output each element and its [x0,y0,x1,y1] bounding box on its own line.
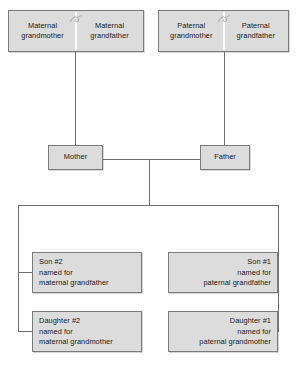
son-1-line1: Son #1 [175,257,271,268]
daughter-2-line2: named for [39,327,135,338]
connector-to-daughter2 [18,331,32,332]
maternal-grandfather-label-line2: grandfather [78,31,141,42]
connector-to-son2 [18,272,32,273]
mother-box[interactable]: Mother [48,145,103,170]
paternal-grandfather-cell: Paternal grandfather [224,21,289,42]
paternal-grandfather-label-line2: grandfather [226,31,287,42]
mother-label: Mother [64,152,87,163]
father-label: Father [214,152,236,163]
maternal-grandmother-label-line1: Maternal [11,21,74,32]
son-2-box[interactable]: Son #2 named for maternal grandfather [32,252,142,293]
son-2-line2: named for [39,268,135,279]
paternal-grandmother-label-line2: grandmother [161,31,222,42]
paternal-couple-divider [223,12,225,50]
daughter-1-line3: paternal grandmother [175,337,271,348]
paternal-grandmother-cell: Paternal grandmother [159,21,224,42]
maternal-grandfather-label-line1: Maternal [78,21,141,32]
son-1-line2: named for [175,268,271,279]
children-bracket-left-vertical [18,205,19,332]
connector-paternal-to-father [224,52,225,145]
connector-maternal-to-mother [75,52,76,145]
paternal-grandparents-couple-box[interactable]: Paternal grandmother Paternal grandfathe… [158,10,289,52]
daughter-1-box[interactable]: Daughter #1 named for paternal grandmoth… [168,311,278,352]
paternal-grandmother-label-line1: Paternal [161,21,222,32]
paternal-grandfather-label-line1: Paternal [226,21,287,32]
connector-parents-to-children [149,159,150,206]
son-1-box[interactable]: Son #1 named for paternal grandfather [168,252,278,293]
daughter-2-line1: Daughter #2 [39,316,135,327]
family-tree-diagram: Maternal grandmother Maternal grandfathe… [0,0,297,366]
connector-mother-father-union [103,159,200,160]
daughter-2-line3: maternal grandmother [39,337,135,348]
children-bracket-right-vertical [278,205,279,332]
son-1-line3: paternal grandfather [175,278,271,289]
maternal-couple-divider [75,12,77,50]
son-2-line1: Son #2 [39,257,135,268]
daughter-1-line2: named for [175,327,271,338]
maternal-grandparents-couple-box[interactable]: Maternal grandmother Maternal grandfathe… [8,10,144,52]
father-box[interactable]: Father [200,145,250,170]
daughter-1-line1: Daughter #1 [175,316,271,327]
maternal-grandmother-label-line2: grandmother [11,31,74,42]
son-2-line3: maternal grandfather [39,278,135,289]
daughter-2-box[interactable]: Daughter #2 named for maternal grandmoth… [32,311,142,352]
maternal-grandmother-cell: Maternal grandmother [9,21,76,42]
children-bracket-horizontal [18,205,279,206]
maternal-grandfather-cell: Maternal grandfather [76,21,143,42]
